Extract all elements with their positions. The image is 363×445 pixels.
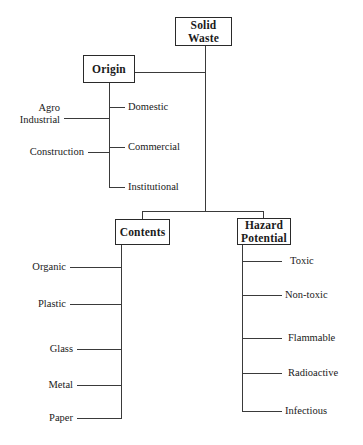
- tick-toxic: [242, 261, 282, 262]
- tick-flammable: [242, 338, 282, 339]
- node-contents-label: Contents: [120, 226, 166, 239]
- leaf-plastic: Plastic: [0, 298, 66, 310]
- node-contents: Contents: [115, 219, 170, 245]
- trunk-vertical-line: [205, 46, 206, 212]
- leaf-toxic: Toxic: [290, 255, 314, 267]
- node-origin: Origin: [83, 55, 135, 83]
- leaf-infectious: Infectious: [285, 405, 327, 417]
- leaf-construction: Construction: [0, 146, 84, 158]
- node-solid-waste-label: Solid Waste: [176, 19, 231, 44]
- tick-non-toxic: [242, 295, 282, 296]
- leaf-metal: Metal: [0, 379, 73, 391]
- leaf-commercial: Commercial: [128, 141, 180, 153]
- tick-metal: [77, 385, 121, 386]
- leaf-agro-industrial: Agro Industrial: [0, 102, 60, 126]
- leaf-organic: Organic: [0, 261, 66, 273]
- leaf-domestic: Domestic: [128, 101, 168, 113]
- tick-plastic: [70, 304, 121, 305]
- leaf-non-toxic: Non-toxic: [285, 289, 328, 301]
- leaf-institutional: Institutional: [128, 181, 179, 193]
- tick-institutional: [109, 187, 125, 188]
- node-hazard-potential-label-line2: Potential: [241, 232, 287, 245]
- leaf-agro-industrial-line1: Agro: [0, 102, 60, 114]
- leaf-radioactive: Radioactive: [288, 367, 338, 379]
- branch-split-bar: [142, 211, 264, 212]
- tick-commercial: [109, 147, 125, 148]
- tick-agro-industrial: [64, 118, 109, 119]
- origin-to-trunk-connector: [135, 72, 206, 73]
- leaf-glass: Glass: [0, 343, 73, 355]
- origin-spine-line: [109, 83, 110, 187]
- leaf-paper: Paper: [0, 412, 73, 424]
- tick-construction: [88, 152, 109, 153]
- tick-infectious: [242, 411, 282, 412]
- hazard-spine-line: [242, 245, 243, 412]
- leaf-agro-industrial-line2: Industrial: [0, 114, 60, 126]
- node-hazard-potential: Hazard Potential: [237, 218, 291, 245]
- node-hazard-potential-label-line1: Hazard: [245, 219, 283, 232]
- tick-organic: [70, 267, 121, 268]
- node-solid-waste: Solid Waste: [175, 17, 232, 46]
- tick-radioactive: [242, 373, 282, 374]
- leaf-flammable: Flammable: [288, 332, 335, 344]
- contents-spine-line: [121, 245, 122, 419]
- tick-paper: [77, 418, 121, 419]
- solid-waste-classification-diagram: Solid Waste Origin Domestic Commercial I…: [0, 0, 363, 445]
- tick-domestic: [109, 107, 125, 108]
- tick-glass: [77, 349, 121, 350]
- node-origin-label: Origin: [92, 63, 126, 76]
